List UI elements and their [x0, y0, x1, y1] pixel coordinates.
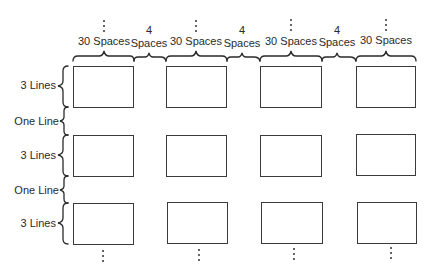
label-gap1-height: One Line	[0, 116, 59, 127]
label-gap2-number: 4	[223, 25, 261, 36]
label-box-r2-c2	[166, 135, 227, 177]
label-box-r3-c4	[357, 202, 417, 244]
brace-left-row2	[58, 135, 68, 176]
label-gap3-unit: Spaces	[318, 37, 356, 48]
ellipsis-top-col3	[289, 19, 293, 34]
label-gap2-unit: Spaces	[223, 38, 261, 49]
ellipsis-top-col4	[384, 19, 388, 34]
label-box-r2-c3	[260, 135, 322, 177]
label-box-r2-c4	[356, 134, 416, 176]
brace-top-gap1	[134, 53, 166, 61]
ellipsis-top-col1	[102, 20, 106, 35]
brace-top-col3	[260, 51, 322, 61]
ellipsis-bottom-col4	[389, 247, 393, 262]
label-box-r3-c2	[167, 202, 228, 244]
label-box-r1-c1	[73, 66, 134, 108]
ellipsis-bottom-col3	[292, 248, 296, 263]
ellipsis-bottom-col1	[101, 250, 105, 265]
label-col4-width: 30 Spaces	[355, 35, 417, 46]
brace-top-col1	[73, 51, 134, 61]
brace-left-row3	[58, 203, 68, 244]
label-row2-height: 3 Lines	[0, 150, 56, 161]
brace-left-row1	[58, 66, 68, 107]
label-gap1-unit: Spaces	[130, 38, 168, 49]
brace-top-col2	[166, 51, 227, 61]
label-gap1-number: 4	[130, 25, 168, 36]
label-layout-diagram: 30 Spaces 4 Spaces 30 Spaces 4 Spaces 30…	[0, 0, 436, 278]
brace-top-gap3	[322, 53, 356, 61]
label-box-r1-c2	[166, 66, 227, 108]
label-col1-width: 30 Spaces	[74, 36, 134, 47]
label-box-r2-c1	[73, 135, 134, 177]
label-box-r3-c1	[73, 203, 134, 245]
label-box-r1-c3	[260, 66, 322, 108]
ellipsis-bottom-col2	[197, 249, 201, 264]
label-col3-width: 30 Spaces	[260, 36, 322, 47]
brace-top-gap2	[227, 53, 260, 61]
label-row3-height: 3 Lines	[0, 218, 56, 229]
label-row1-height: 3 Lines	[0, 80, 56, 91]
brace-left-gap1	[60, 107, 68, 135]
brace-left-gap2	[60, 176, 68, 203]
label-gap3-number: 4	[318, 25, 356, 36]
label-gap2-height: One Line	[0, 185, 59, 196]
brace-top-col4	[356, 51, 416, 61]
label-col2-width: 30 Spaces	[166, 36, 226, 47]
ellipsis-top-col2	[194, 20, 198, 35]
label-box-r1-c4	[356, 66, 416, 108]
label-box-r3-c3	[261, 202, 323, 244]
